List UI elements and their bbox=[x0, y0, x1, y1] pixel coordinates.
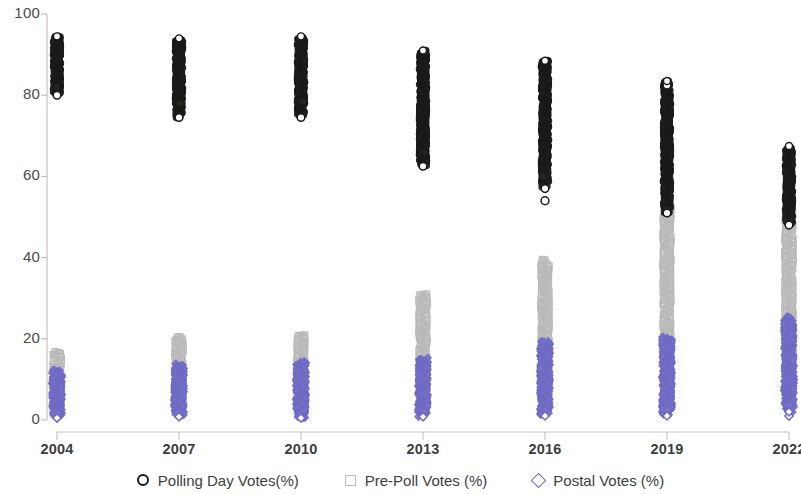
x-tick-label: 2004 bbox=[27, 441, 87, 457]
x-tick-label: 2013 bbox=[393, 441, 453, 457]
square-marker-icon bbox=[345, 475, 356, 486]
legend-item-square[interactable]: Pre-Poll Votes (%) bbox=[345, 472, 488, 489]
y-tick-label: 60 bbox=[0, 166, 40, 183]
x-tick-label: 2010 bbox=[271, 441, 331, 457]
x-tick-label: 2016 bbox=[515, 441, 575, 457]
data-points-layer bbox=[49, 33, 798, 422]
y-tick-label: 20 bbox=[0, 329, 40, 346]
y-tick-label: 0 bbox=[0, 410, 40, 427]
x-tick-label: 2022 bbox=[759, 441, 801, 457]
y-tick-label: 40 bbox=[0, 248, 40, 265]
x-tick-label: 2007 bbox=[149, 441, 209, 457]
legend-label: Pre-Poll Votes (%) bbox=[365, 472, 488, 489]
legend-item-diamond[interactable]: Postal Votes (%) bbox=[533, 472, 664, 489]
legend-label: Postal Votes (%) bbox=[553, 472, 664, 489]
plot-area bbox=[0, 0, 801, 494]
diamond-marker-icon bbox=[531, 472, 547, 488]
axis-lines bbox=[41, 14, 789, 440]
scatter-chart: 020406080100 200420072010201320162019202… bbox=[0, 0, 801, 494]
x-tick-label: 2019 bbox=[637, 441, 697, 457]
y-tick-label: 100 bbox=[0, 4, 40, 21]
legend-label: Polling Day Votes(%) bbox=[158, 472, 299, 489]
circle-marker-icon bbox=[137, 474, 149, 486]
legend-item-circle[interactable]: Polling Day Votes(%) bbox=[137, 472, 299, 489]
y-tick-label: 80 bbox=[0, 85, 40, 102]
chart-legend: Polling Day Votes(%)Pre-Poll Votes (%)Po… bbox=[0, 466, 801, 494]
